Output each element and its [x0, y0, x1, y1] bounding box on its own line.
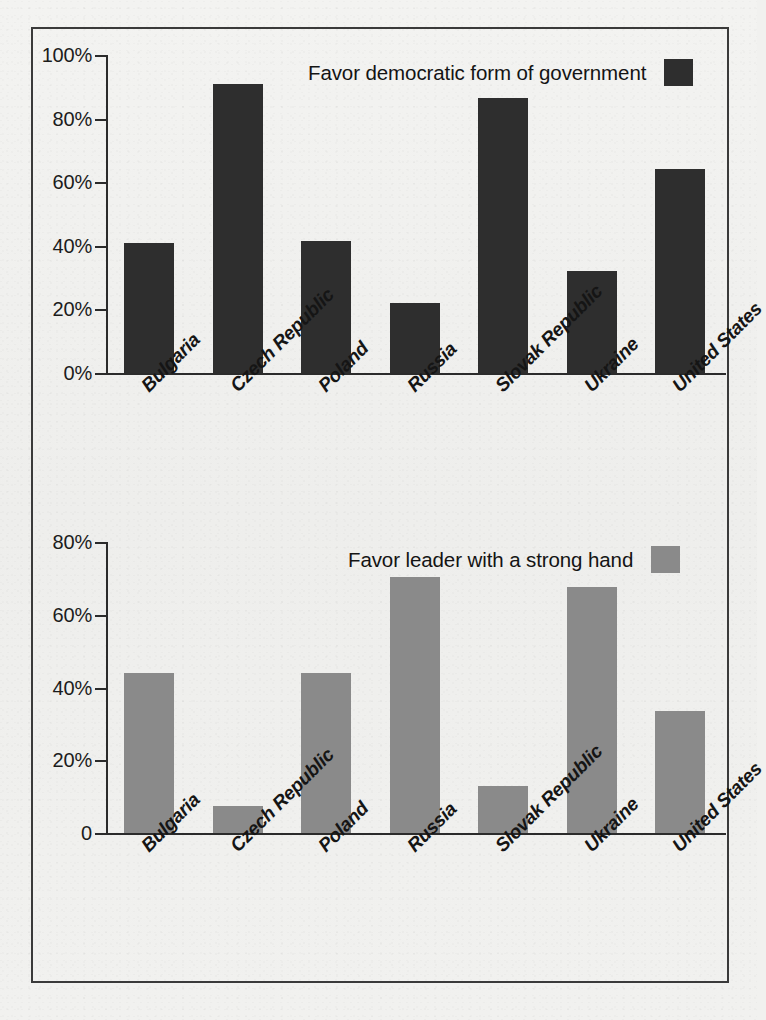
- bar: [390, 577, 440, 833]
- bottom-chart-panel: Favor leader with a strong hand 020%40%6…: [33, 499, 727, 985]
- top-chart-plot-area: 0%20%40%60%80%100% BulgariaCzech Republi…: [106, 55, 726, 375]
- bar: [213, 84, 263, 373]
- top-chart-x-labels: BulgariaCzech RepublicPolandRussiaSlovak…: [106, 375, 726, 495]
- bar: [655, 169, 705, 373]
- y-tick-mark: [95, 688, 106, 690]
- top-chart-panel: Favor democratic form of government 0%20…: [33, 29, 727, 499]
- bar: [567, 587, 617, 833]
- y-tick-mark: [95, 373, 106, 375]
- y-tick-mark: [95, 119, 106, 121]
- y-tick-mark: [95, 182, 106, 184]
- y-tick-label: 0: [81, 822, 92, 845]
- y-tick-label: 60%: [53, 171, 92, 194]
- y-tick-label: 40%: [53, 234, 92, 257]
- bar: [478, 98, 528, 373]
- y-tick-label: 20%: [53, 298, 92, 321]
- y-tick-mark: [95, 55, 106, 57]
- y-tick-label: 80%: [53, 531, 92, 554]
- y-tick-mark: [95, 246, 106, 248]
- y-tick-label: 20%: [53, 749, 92, 772]
- bottom-chart-bars: [106, 542, 726, 835]
- y-tick-label: 40%: [53, 676, 92, 699]
- figure-frame: Favor democratic form of government 0%20…: [31, 27, 729, 983]
- y-tick-mark: [95, 615, 106, 617]
- bottom-chart-x-labels: BulgariaCzech RepublicPolandRussiaSlovak…: [106, 835, 726, 955]
- y-tick-label: 0%: [63, 362, 92, 385]
- y-tick-mark: [95, 833, 106, 835]
- y-tick-label: 100%: [42, 44, 92, 67]
- y-tick-label: 60%: [53, 603, 92, 626]
- bottom-chart-plot-area: 020%40%60%80% BulgariaCzech RepublicPola…: [106, 542, 726, 835]
- y-tick-mark: [95, 542, 106, 544]
- top-chart-bars: [106, 55, 726, 375]
- y-tick-label: 80%: [53, 107, 92, 130]
- y-tick-mark: [95, 309, 106, 311]
- bar: [124, 673, 174, 833]
- y-tick-mark: [95, 760, 106, 762]
